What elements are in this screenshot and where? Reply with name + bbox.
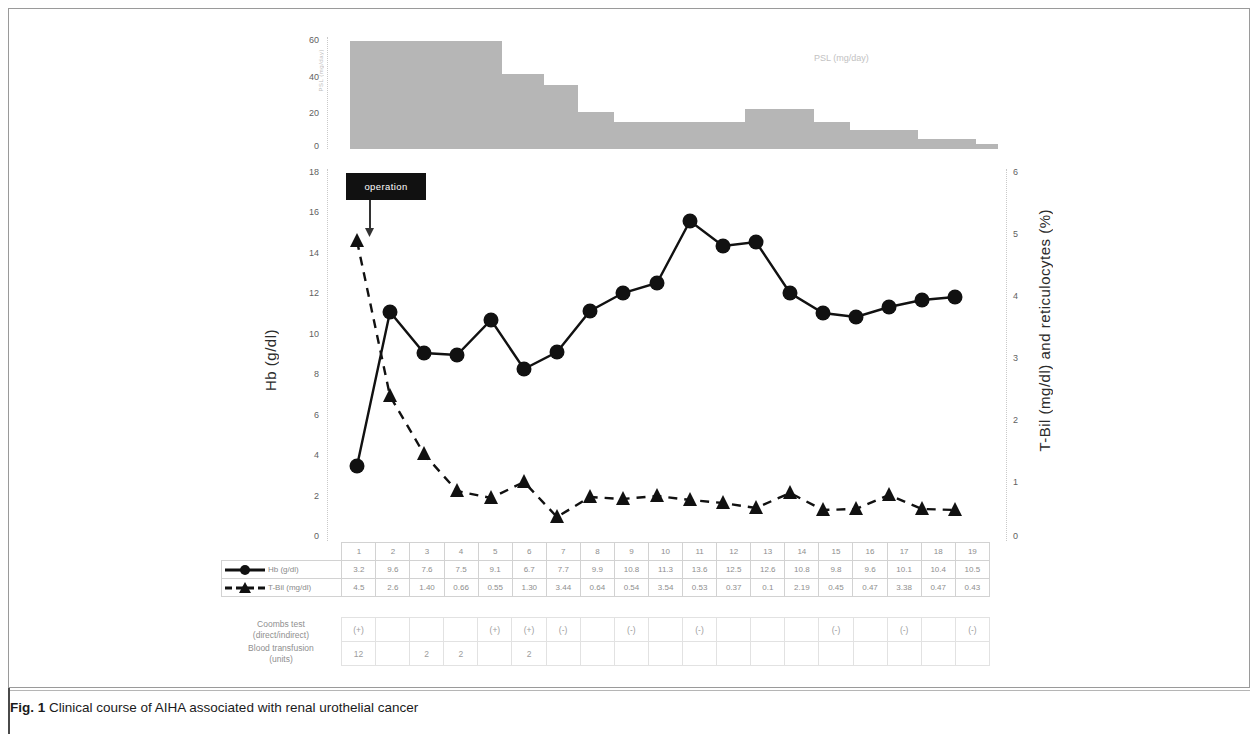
hb-cell: 11.3 xyxy=(649,561,683,579)
psl-tick-40: 40 xyxy=(295,72,319,82)
transfusion-cell: 2 xyxy=(444,642,478,666)
transfusion-cell xyxy=(546,642,580,666)
psl-tick-20: 20 xyxy=(295,108,319,118)
hb-markers xyxy=(350,214,963,474)
hb-cell: 12.5 xyxy=(717,561,751,579)
coombs-cell xyxy=(410,618,444,642)
tbil-cell: 3.54 xyxy=(649,579,683,597)
hb-cell: 10.5 xyxy=(955,561,989,579)
coombs-cell xyxy=(648,618,682,642)
figure-plot-area: 60 40 20 0 PSL (mg/day) PSL (mg/day) 18 … xyxy=(9,9,1249,687)
week-header-cell: 11 xyxy=(683,543,717,561)
coombs-label-line1: Coombs test xyxy=(223,619,339,630)
hb-tick-0: 0 xyxy=(295,531,319,541)
transfusion-cell xyxy=(887,642,921,666)
tbil-cell: 4.5 xyxy=(342,579,376,597)
hb-cell: 9.6 xyxy=(376,561,410,579)
tbil-tick-0: 0 xyxy=(1013,531,1018,541)
tbil-cell: 3.44 xyxy=(546,579,580,597)
tbil-cell: 3.38 xyxy=(887,579,921,597)
table-row-transfusion: Blood transfusion (units) 12 2 2 2 xyxy=(221,642,990,666)
tbil-cell: 0.45 xyxy=(819,579,853,597)
transfusion-cell xyxy=(921,642,955,666)
hb-cell: 10.1 xyxy=(887,561,921,579)
caption-text: Clinical course of AIHA associated with … xyxy=(49,700,418,715)
tbil-cell: 0.47 xyxy=(921,579,955,597)
week-header-cell: 3 xyxy=(410,543,444,561)
transfusion-row-label: Blood transfusion (units) xyxy=(221,642,341,666)
hb-cell: 9.8 xyxy=(819,561,853,579)
coombs-cell xyxy=(921,618,955,642)
coombs-cell xyxy=(580,618,614,642)
hb-cell: 12.6 xyxy=(751,561,785,579)
coombs-cell: (-) xyxy=(682,618,716,642)
transfusion-cell: 2 xyxy=(410,642,444,666)
week-header-cell: 7 xyxy=(546,543,580,561)
hb-tick-10: 10 xyxy=(295,329,319,339)
transfusion-cell xyxy=(376,642,410,666)
transfusion-cell xyxy=(614,642,648,666)
week-header-cell: 19 xyxy=(955,543,989,561)
coombs-cell: (-) xyxy=(546,618,580,642)
week-header-cell: 15 xyxy=(819,543,853,561)
hb-cell: 9.6 xyxy=(853,561,887,579)
coombs-cell: (+) xyxy=(341,618,375,642)
transfusion-cell xyxy=(682,642,716,666)
coombs-label-line2: (direct/indirect) xyxy=(223,630,339,641)
psl-tick-0: 0 xyxy=(295,141,319,151)
week-header-cell: 18 xyxy=(921,543,955,561)
coombs-cell: (+) xyxy=(478,618,512,642)
hb-tick-16: 16 xyxy=(295,207,319,217)
hb-cell: 10.4 xyxy=(921,561,955,579)
hb-tick-2: 2 xyxy=(295,491,319,501)
tbil-cell: 0.1 xyxy=(751,579,785,597)
week-header-cell: 17 xyxy=(887,543,921,561)
psl-step-bar xyxy=(350,41,502,149)
operation-annotation: operation xyxy=(346,173,426,200)
tbil-cell: 0.37 xyxy=(717,579,751,597)
hb-line xyxy=(357,221,955,466)
hb-cell: 7.6 xyxy=(410,561,444,579)
transfusion-cell xyxy=(853,642,887,666)
hb-cell: 3.2 xyxy=(342,561,376,579)
tbil-tick-2: 2 xyxy=(1013,415,1018,425)
table-row-hb: Hb (g/dl) 3.2 9.6 7.6 7.5 9.1 6.7 7.7 9.… xyxy=(222,561,990,579)
hb-cell: 7.5 xyxy=(444,561,478,579)
transfusion-cell: 2 xyxy=(512,642,546,666)
tbil-tick-5: 5 xyxy=(1013,229,1018,239)
hb-tick-6: 6 xyxy=(295,410,319,420)
transfusion-cell xyxy=(717,642,751,666)
tbil-cell: 0.55 xyxy=(478,579,512,597)
tbil-tick-6: 6 xyxy=(1013,167,1018,177)
coombs-row-label: Coombs test (direct/indirect) xyxy=(221,618,341,642)
tbil-row-legend: T-Bil (mg/dl) xyxy=(222,579,342,597)
hb-tick-12: 12 xyxy=(295,288,319,298)
series-data-table: 1 2 3 4 5 6 7 8 9 10 11 12 13 14 15 16 1 xyxy=(221,542,990,597)
psl-step-bar xyxy=(918,139,976,149)
psl-step-bar xyxy=(745,109,814,149)
hb-cell: 13.6 xyxy=(683,561,717,579)
coombs-cell xyxy=(717,618,751,642)
psl-step-bar xyxy=(614,122,745,149)
hb-cell: 6.7 xyxy=(512,561,546,579)
week-header-cell: 12 xyxy=(717,543,751,561)
hb-row-label: Hb (g/dl) xyxy=(268,565,299,574)
hb-axis-line xyxy=(327,169,328,541)
table-row-coombs: Coombs test (direct/indirect) (+) (+) (+… xyxy=(221,618,990,642)
psl-step-bar xyxy=(814,122,850,149)
hb-cell: 9.9 xyxy=(580,561,614,579)
transfusion-label-line1: Blood transfusion xyxy=(223,643,339,654)
transfusion-cell xyxy=(819,642,853,666)
tbil-cell: 1.30 xyxy=(512,579,546,597)
tbil-row-label: T-Bil (mg/dl) xyxy=(268,583,311,592)
caption-prefix: Fig. 1 xyxy=(10,700,45,715)
hb-row-legend: Hb (g/dl) xyxy=(222,561,342,579)
psl-step-bar xyxy=(976,144,998,149)
week-header-cell: 16 xyxy=(853,543,887,561)
transfusion-cell xyxy=(785,642,819,666)
week-header-cell: 13 xyxy=(751,543,785,561)
week-header-cell: 14 xyxy=(785,543,819,561)
transfusion-cell xyxy=(751,642,785,666)
operation-arrow-stem xyxy=(369,200,371,228)
coombs-cell xyxy=(785,618,819,642)
